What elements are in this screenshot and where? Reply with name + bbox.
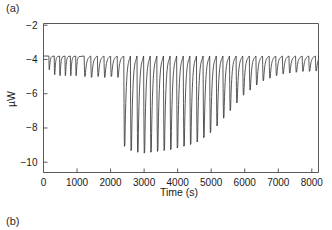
figure-root: 010002000300040005000600070008000−2−4−6−… — [0, 0, 332, 230]
thermogram-trace — [44, 56, 319, 153]
y-tick-label: −6 — [26, 88, 38, 99]
y-tick-label: −4 — [26, 54, 38, 65]
y-tick-label: −8 — [26, 122, 38, 133]
plot-panel-a: 010002000300040005000600070008000−2−4−6−… — [0, 0, 332, 205]
itc-thermogram-svg: 010002000300040005000600070008000−2−4−6−… — [0, 0, 332, 205]
x-axis-title: Time (s) — [0, 186, 332, 198]
x-axis: 010002000300040005000600070008000 — [41, 169, 324, 188]
y-tick-label: −2 — [26, 20, 38, 31]
y-tick-label: −10 — [21, 157, 38, 168]
y-axis-title: µW — [5, 79, 17, 119]
panel-a-label: (a) — [6, 2, 19, 14]
plot-frame — [44, 24, 319, 173]
panel-b-label: (b) — [6, 215, 19, 227]
